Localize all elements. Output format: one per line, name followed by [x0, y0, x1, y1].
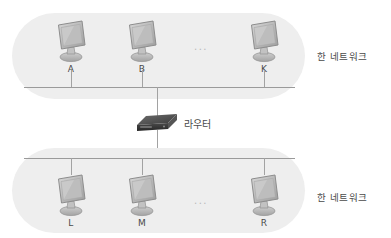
- network-label-bottom: 한 네트워크: [317, 190, 367, 204]
- computer-icon[interactable]: [54, 172, 88, 218]
- network-bus-top: [24, 87, 295, 88]
- host-label: M: [125, 218, 159, 228]
- computer-icon[interactable]: [125, 172, 159, 218]
- router-label: 라우터: [184, 116, 212, 131]
- drop-line: [142, 70, 143, 87]
- network-label-top: 한 네트워크: [317, 49, 367, 63]
- computer-icon[interactable]: [247, 172, 281, 218]
- host-label: R: [247, 218, 281, 228]
- drop-line: [264, 70, 265, 87]
- drop-line: [71, 70, 72, 87]
- computer-icon[interactable]: [247, 18, 281, 64]
- host-label: L: [54, 218, 88, 228]
- network-diagram: A B ... K 한 네트워크: [0, 0, 391, 238]
- computer-icon[interactable]: [125, 18, 159, 64]
- computer-icon[interactable]: [54, 18, 88, 64]
- network-bus-bottom: [24, 158, 295, 159]
- ellipsis-top: ...: [194, 42, 208, 52]
- ellipsis-bottom: ...: [194, 196, 208, 206]
